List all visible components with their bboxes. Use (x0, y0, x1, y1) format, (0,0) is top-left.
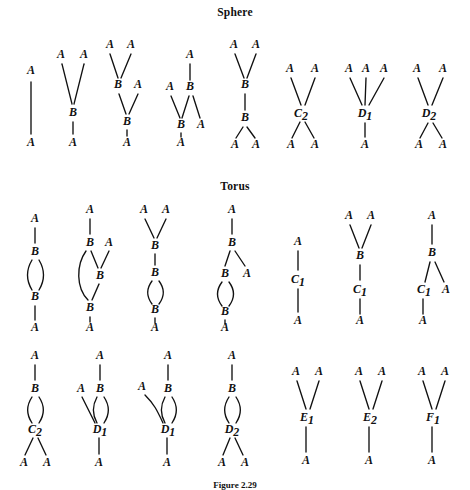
edge (101, 251, 109, 268)
edge-loop-right (39, 397, 44, 423)
edge-loop-left (161, 397, 165, 423)
diagram-torus-9: A A B D1 A (76, 348, 109, 469)
node-A: A (291, 364, 300, 378)
node-E2: E2 (362, 410, 377, 427)
diagram-torus-5: A C1 A (291, 234, 305, 327)
node-B: B (427, 245, 436, 259)
edge (310, 381, 319, 409)
node-A: A (227, 202, 236, 216)
node-A: A (427, 453, 436, 467)
diagram-torus-8: A B C2 A A (19, 348, 51, 469)
node-B: B (68, 105, 77, 119)
node-B: B (150, 302, 159, 316)
node-A: A (162, 455, 171, 469)
edge (235, 54, 244, 78)
edge (247, 127, 255, 138)
edge (82, 397, 95, 423)
node-B: B (240, 77, 249, 91)
node-A: A (344, 61, 353, 75)
diagram-sphere-4: A A B B A A (165, 47, 205, 149)
node-B: B (163, 381, 172, 395)
edge-loop-right (172, 397, 177, 423)
node-A: A (85, 320, 94, 334)
diagram-torus-2: A B A B B A (79, 202, 113, 334)
node-B: B (150, 238, 159, 252)
node-C2: C2 (294, 106, 308, 123)
node-C1: C1 (291, 272, 305, 289)
diagram-sphere-8: A A D2 A A (412, 61, 447, 151)
node-A: A (354, 364, 363, 378)
node-A: A (344, 208, 353, 222)
node-B: B (227, 381, 236, 395)
node-A: A (150, 320, 159, 334)
node-A: A (165, 79, 174, 93)
node-B: B (85, 300, 94, 314)
edge (365, 78, 366, 105)
node-A: A (217, 455, 226, 469)
node-A: A (414, 137, 423, 151)
edge-loop-right (159, 281, 164, 304)
edge-loop-right (39, 260, 44, 290)
node-B: B (220, 304, 229, 318)
node-A: A (310, 137, 319, 151)
edge-loop-left (28, 397, 33, 423)
node-B: B (176, 117, 185, 131)
diagram-torus-13: A A E2 A (354, 364, 386, 467)
node-B: B (30, 289, 39, 303)
node-A: A (122, 135, 131, 149)
edge (25, 438, 33, 455)
section-title-sphere: Sphere (0, 6, 470, 18)
node-A: A (293, 313, 302, 327)
edge (129, 94, 138, 114)
node-C1: C1 (353, 282, 367, 299)
node-D1: D1 (160, 422, 176, 439)
edge (38, 438, 46, 455)
diagram-sphere-3: A A B A B A (105, 37, 142, 149)
node-A: A (355, 313, 364, 327)
node-A: A (133, 77, 142, 91)
node-A: A (227, 348, 236, 362)
node-B: B (240, 110, 249, 124)
node-A: A (360, 137, 369, 151)
node-B: B (113, 77, 122, 91)
edge (74, 64, 84, 104)
diagram-torus-6: A A B C1 A (344, 208, 375, 327)
edge-loop-left (93, 397, 97, 423)
edge (433, 123, 442, 138)
edge (305, 78, 315, 105)
node-A: A (301, 453, 310, 467)
edge-loop-right (229, 282, 234, 306)
edge (420, 123, 428, 138)
edge-loop-left (28, 260, 33, 290)
edge-arc (145, 395, 163, 423)
diagram-torus-14: A A F1 A (417, 364, 449, 467)
node-A: A (105, 37, 114, 51)
node-A: A (185, 47, 194, 61)
edge (292, 122, 300, 138)
node-A: A (30, 211, 39, 225)
edge (247, 54, 256, 78)
node-A: A (68, 135, 77, 149)
node-D1: D1 (357, 106, 373, 123)
edge (121, 54, 131, 78)
node-B: B (150, 265, 159, 279)
node-D2: D2 (224, 422, 240, 439)
node-A: A (76, 381, 85, 395)
diagram-sphere-2: A A B A (56, 47, 88, 149)
node-A: A (377, 364, 386, 378)
node-A: A (56, 47, 65, 61)
diagram-torus-4: A B B A B A (218, 202, 252, 334)
edge (62, 64, 72, 104)
diagram-torus-1: A B B A (28, 211, 44, 334)
node-A: A (314, 364, 323, 378)
node-C2: C2 (28, 422, 42, 439)
node-A: A (379, 61, 388, 75)
node-A: A (139, 202, 148, 216)
node-A: A (176, 135, 185, 149)
node-D1: D1 (92, 422, 108, 439)
edge (291, 78, 301, 105)
edge (436, 381, 445, 409)
node-C1: C1 (417, 282, 431, 299)
edge-loop-right (236, 397, 241, 423)
